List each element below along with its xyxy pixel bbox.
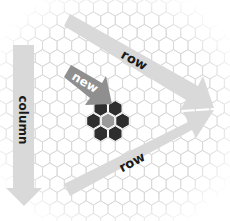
center-hex <box>101 113 115 129</box>
hex-grid-diagram: row row column new <box>0 0 230 221</box>
neighbor-hex <box>109 126 123 142</box>
neighbor-hex <box>116 113 130 129</box>
neighbor-hex <box>94 126 108 142</box>
column-label: column <box>16 95 30 144</box>
neighbor-hex <box>87 113 101 129</box>
